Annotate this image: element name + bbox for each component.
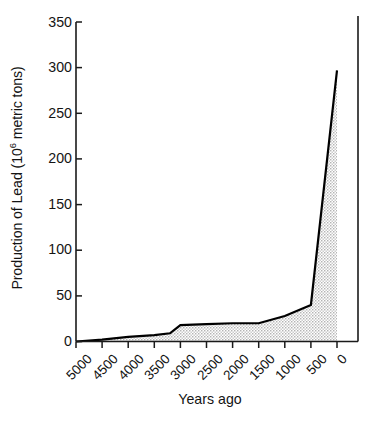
x-tick-label: 0 (332, 352, 350, 370)
x-axis-title: Years ago (178, 391, 241, 407)
x-axis-title-container: Years ago (0, 391, 382, 407)
x-tick-label: 2500 (190, 352, 225, 387)
x-axis-tick-labels: 5000 4500 4000 3500 3000 2500 2000 1500 … (0, 0, 382, 428)
chart-figure: Production of Lead (106 metric tons) 350… (0, 0, 382, 428)
x-tick-label: 500 (299, 352, 329, 382)
